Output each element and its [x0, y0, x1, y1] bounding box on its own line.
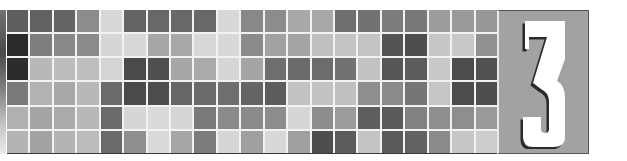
mosaic-tile: [241, 131, 262, 153]
mosaic-tile: [77, 10, 98, 32]
mosaic-tile: [335, 58, 356, 80]
mosaic-tile: [288, 58, 309, 80]
mosaic-tile: [358, 131, 379, 153]
mosaic-tile: [312, 10, 333, 32]
mosaic-tile: [429, 131, 450, 153]
mosaic-tile: [77, 34, 98, 56]
mosaic-tile: [124, 34, 145, 56]
mosaic-tile: [288, 34, 309, 56]
mosaic-tile: [124, 107, 145, 129]
mosaic-tile: [101, 131, 122, 153]
mosaic-tile: [77, 107, 98, 129]
mosaic-tile: [358, 107, 379, 129]
mosaic-tile: [405, 10, 426, 32]
mosaic-tile: [54, 58, 75, 80]
mosaic-tile: [405, 82, 426, 104]
mosaic-tile: [148, 58, 169, 80]
mosaic-tile: [358, 10, 379, 32]
mosaic-tile: [30, 58, 51, 80]
mosaic-tile: [382, 107, 403, 129]
mosaic-tile: [476, 34, 497, 56]
mosaic-tile: [476, 82, 497, 104]
mosaic-tile: [54, 82, 75, 104]
mosaic-tile: [54, 10, 75, 32]
mosaic-tile: [218, 82, 239, 104]
mosaic-tile: [194, 10, 215, 32]
mosaic-tile: [452, 34, 473, 56]
mosaic-tile: [7, 10, 28, 32]
mosaic-tile: [335, 10, 356, 32]
mosaic-tile: [194, 107, 215, 129]
mosaic-tile: [171, 34, 192, 56]
mosaic-tile: [194, 58, 215, 80]
mosaic-tile: [7, 82, 28, 104]
mosaic-tile: [405, 107, 426, 129]
mosaic-tile: [241, 10, 262, 32]
mosaic-tile: [148, 82, 169, 104]
mosaic-tile: [171, 82, 192, 104]
mosaic-tile: [452, 131, 473, 153]
mosaic-tile: [30, 34, 51, 56]
mosaic-tile: [54, 34, 75, 56]
mosaic-tile: [405, 34, 426, 56]
mosaic-tile: [265, 131, 286, 153]
mosaic-tile: [358, 58, 379, 80]
mosaic-tile: [124, 131, 145, 153]
mosaic-tile: [54, 131, 75, 153]
chapter-banner: 3: [0, 0, 627, 161]
mosaic-tile: [358, 82, 379, 104]
mosaic-tile: [312, 107, 333, 129]
chapter-number-panel: 3: [497, 10, 589, 154]
mosaic-tile: [265, 82, 286, 104]
mosaic-tile: [405, 131, 426, 153]
mosaic-tile: [358, 34, 379, 56]
mosaic-tile: [124, 58, 145, 80]
mosaic-tile: [241, 58, 262, 80]
mosaic-tile: [452, 10, 473, 32]
mosaic-tile: [30, 107, 51, 129]
mosaic-tile: [429, 58, 450, 80]
mosaic-tile: [335, 34, 356, 56]
mosaic-tile: [452, 58, 473, 80]
mosaic-tile: [241, 107, 262, 129]
mosaic-tile: [101, 34, 122, 56]
mosaic-tile: [218, 10, 239, 32]
mosaic-tile: [335, 107, 356, 129]
mosaic-tile: [218, 34, 239, 56]
mosaic-tile: [218, 58, 239, 80]
mosaic-tile: [77, 131, 98, 153]
mosaic-tile: [335, 82, 356, 104]
mosaic-tile: [7, 107, 28, 129]
mosaic-tile: [30, 131, 51, 153]
mosaic-tile: [241, 82, 262, 104]
mosaic-tile: [7, 58, 28, 80]
mosaic-tile: [101, 82, 122, 104]
mosaic-tile: [148, 34, 169, 56]
mosaic-tile: [54, 107, 75, 129]
mosaic-tile: [476, 131, 497, 153]
mosaic-tile: [171, 107, 192, 129]
numeral-three-icon: 3: [519, 19, 571, 149]
mosaic-tile: [452, 107, 473, 129]
mosaic-tile: [382, 131, 403, 153]
mosaic-tile: [429, 82, 450, 104]
mosaic-tile: [405, 58, 426, 80]
mosaic-tile: [335, 131, 356, 153]
mosaic-tile: [241, 34, 262, 56]
mosaic-tile: [312, 34, 333, 56]
mosaic-tile: [312, 131, 333, 153]
mosaic-tile: [476, 107, 497, 129]
mosaic-tile: [288, 82, 309, 104]
chapter-number: 3: [519, 19, 571, 149]
mosaic-tile: [7, 131, 28, 153]
mosaic-tile: [429, 10, 450, 32]
mosaic-tile: [288, 10, 309, 32]
mosaic-tile: [171, 10, 192, 32]
left-edge-fade: [0, 10, 6, 154]
mosaic-tile: [476, 10, 497, 32]
mosaic-tile: [218, 131, 239, 153]
mosaic-tile: [265, 58, 286, 80]
mosaic-tile: [101, 10, 122, 32]
mosaic-tile: [452, 82, 473, 104]
mosaic-grid: [7, 10, 497, 154]
